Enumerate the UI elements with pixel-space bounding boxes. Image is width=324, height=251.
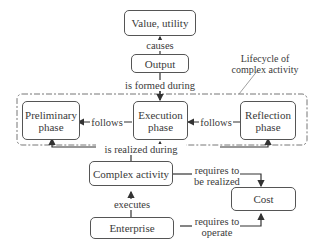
node-execution-phase: Execution phase: [133, 101, 188, 140]
edge-label-line: requires to: [195, 165, 240, 176]
edge-executes: executes: [112, 199, 152, 210]
edge-follows-right: follows: [199, 117, 233, 128]
node-label: Enterprise: [109, 222, 154, 234]
edge-requires-operate: requires to operate: [194, 216, 240, 238]
group-label-line: Lifecycle of: [241, 53, 290, 64]
node-preliminary-phase: Preliminary phase: [22, 101, 80, 140]
node-reflection-phase: Reflection phase: [240, 101, 296, 140]
node-label: Reflection phase: [244, 109, 292, 133]
node-complex-activity: Complex activity: [89, 161, 173, 186]
node-enterprise: Enterprise: [90, 217, 174, 239]
node-label: Value, utility: [132, 17, 189, 29]
lifecycle-group-label: Lifecycle of complex activity: [230, 53, 300, 75]
node-label: Complex activity: [93, 168, 169, 180]
edge-label-line: be realized: [194, 176, 240, 187]
node-label: Cost: [253, 193, 273, 205]
edge-causes: causes: [141, 40, 179, 51]
edge-label-line: requires to: [195, 216, 240, 227]
node-cost: Cost: [231, 187, 296, 211]
edge-follows-left: follows: [90, 117, 124, 128]
node-label: Output: [145, 58, 176, 70]
edge-label-line: operate: [202, 227, 233, 238]
edge-realized-during: is realized during: [96, 144, 186, 155]
edge-formed-during: is formed during: [124, 80, 196, 91]
node-value-utility: Value, utility: [124, 10, 196, 36]
node-label: Execution phase: [137, 109, 185, 133]
group-label-line: complex activity: [232, 64, 299, 75]
node-output: Output: [131, 54, 189, 73]
edge-requires-realized: requires to be realized: [194, 165, 240, 187]
node-label: Preliminary phase: [25, 109, 77, 133]
